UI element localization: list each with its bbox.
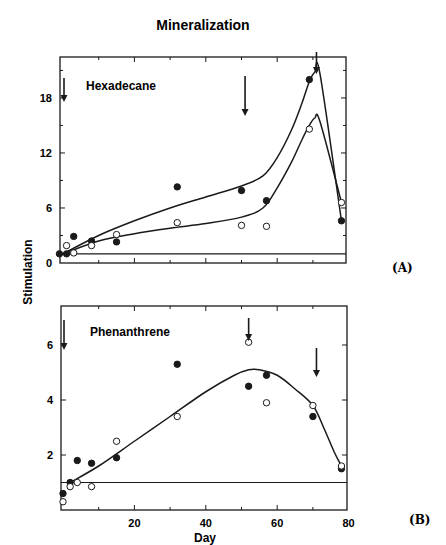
- x-tick-label: 60: [271, 517, 283, 529]
- open-data-point: [238, 222, 244, 228]
- open-data-point: [63, 242, 69, 248]
- open-data-point: [88, 242, 94, 248]
- filled-data-point: [60, 490, 66, 496]
- arrow-head-icon: [242, 109, 249, 116]
- y-tick-label: 12: [40, 147, 52, 159]
- open-data-point: [263, 400, 269, 406]
- open-data-point: [67, 483, 73, 489]
- y-tick-label: 18: [40, 92, 52, 104]
- y-axis-label: Stimulation: [21, 239, 35, 304]
- open-data-point: [113, 438, 119, 444]
- open-data-point: [263, 223, 269, 229]
- fit-curve: [70, 369, 341, 482]
- filled-data-point: [263, 197, 269, 203]
- arrow-head-icon: [313, 370, 320, 377]
- x-tick-label: 20: [128, 517, 140, 529]
- open-data-point: [306, 126, 312, 132]
- x-tick-label: 80: [342, 517, 354, 529]
- filled-data-point: [71, 233, 77, 239]
- panel-a-hexadecane: 061218Hexadecane(A): [40, 52, 413, 275]
- open-data-point: [338, 463, 344, 469]
- filled-data-point: [263, 372, 269, 378]
- open-data-point: [174, 413, 180, 419]
- filled-data-point: [56, 251, 62, 257]
- open-data-point: [174, 219, 180, 225]
- filled-data-point: [113, 455, 119, 461]
- panel-label: Phenanthrene: [90, 325, 170, 339]
- figure: Mineralization Stimulation Day 061218Hex…: [0, 0, 446, 545]
- x-axis-label: Day: [194, 531, 216, 545]
- y-tick-label: 6: [47, 339, 53, 351]
- filled-data-point: [63, 251, 69, 257]
- open-data-point: [310, 402, 316, 408]
- chart-title: Mineralization: [156, 17, 249, 33]
- open-data-point: [60, 499, 66, 505]
- y-tick-label: 4: [47, 394, 54, 406]
- open-data-point: [71, 250, 77, 256]
- filled-data-point: [245, 383, 251, 389]
- filled-data-point: [174, 361, 180, 367]
- filled-data-point: [238, 187, 244, 193]
- filled-data-point: [174, 184, 180, 190]
- filled-data-point: [74, 457, 80, 463]
- panel-label: Hexadecane: [86, 79, 156, 93]
- filled-data-point: [306, 76, 312, 82]
- open-data-point: [74, 479, 80, 485]
- panel-b-phenanthrene: 24620406080Phenanthrene(B): [47, 306, 431, 529]
- filled-data-point: [310, 413, 316, 419]
- y-tick-label: 6: [46, 202, 52, 214]
- filled-data-point: [88, 460, 94, 466]
- open-data-point: [113, 231, 119, 237]
- panel-tag: (B): [409, 513, 431, 527]
- open-data-point: [338, 199, 344, 205]
- arrow-head-icon: [61, 95, 68, 102]
- x-tick-label: 40: [200, 517, 212, 529]
- filled-data-point: [338, 218, 344, 224]
- y-tick-label: 2: [47, 449, 53, 461]
- panel-tag: (A): [392, 261, 413, 275]
- open-data-point: [88, 483, 94, 489]
- filled-data-point: [113, 239, 119, 245]
- y-tick-label: 0: [46, 257, 52, 269]
